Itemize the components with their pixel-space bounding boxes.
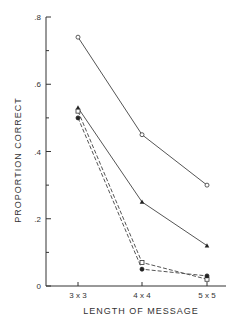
line-chart: 0.2.4.6.8 3 x 34 x 45 x 5 LENGTH OF MESS… xyxy=(0,0,237,324)
y-axis-title: PROPORTION CORRECT xyxy=(13,97,23,222)
data-point-filled-circle xyxy=(76,116,80,120)
data-point-filled-circle xyxy=(140,267,144,271)
data-point-open-square xyxy=(76,109,80,113)
y-ticks: 0.2.4.6.8 xyxy=(34,13,51,291)
x-tick-label: 4 x 4 xyxy=(133,291,151,300)
data-point-filled-circle xyxy=(205,274,209,278)
y-tick-label: .8 xyxy=(34,13,41,22)
y-tick-label: .2 xyxy=(34,215,41,224)
x-axis-title: LENGTH OF MESSAGE xyxy=(83,306,199,316)
y-tick-label: .4 xyxy=(34,148,41,157)
data-point-open-circle xyxy=(205,183,209,187)
y-tick-label: 0 xyxy=(37,282,42,291)
series-line-filled-circle xyxy=(78,118,207,276)
x-tick-label: 5 x 5 xyxy=(198,291,216,300)
x-tick-label: 3 x 3 xyxy=(69,291,87,300)
y-tick-label: .6 xyxy=(34,80,41,89)
series-group xyxy=(76,35,210,281)
axes xyxy=(46,17,226,286)
series-line-filled-triangle xyxy=(78,108,207,246)
data-point-filled-triangle xyxy=(205,243,210,247)
data-point-open-circle xyxy=(140,133,144,137)
x-ticks: 3 x 34 x 45 x 5 xyxy=(69,282,216,300)
data-point-open-square xyxy=(140,260,144,264)
data-point-open-circle xyxy=(76,35,80,39)
